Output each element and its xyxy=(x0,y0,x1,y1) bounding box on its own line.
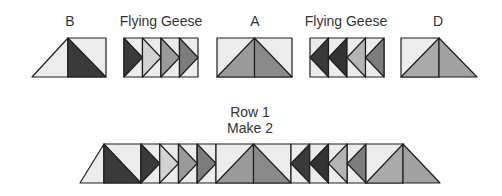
label-block-a: A xyxy=(240,13,270,29)
label-block-b: B xyxy=(55,13,85,29)
row-title: Row 1 xyxy=(200,104,300,120)
flying-geese-right xyxy=(124,38,198,77)
flying-geese-left xyxy=(310,38,384,77)
quilt-diagram xyxy=(0,0,502,196)
label-block-d: D xyxy=(423,13,453,29)
block-a xyxy=(217,38,292,77)
row-instruction: Make 2 xyxy=(200,120,300,136)
row-1-assembled xyxy=(80,144,440,183)
label-flying-geese-1: Flying Geese xyxy=(111,13,211,29)
block-d xyxy=(401,38,477,77)
block-b xyxy=(32,38,106,77)
label-flying-geese-2: Flying Geese xyxy=(296,13,396,29)
